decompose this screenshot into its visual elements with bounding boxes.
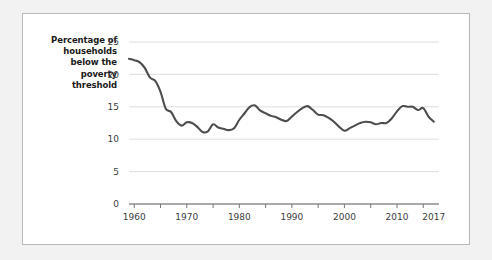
- x-tick-label: 1960: [123, 212, 146, 222]
- y-tick-label: 20: [108, 70, 120, 80]
- x-tick-label: 1990: [280, 212, 303, 222]
- poverty-rate-series-line: [129, 59, 434, 133]
- x-tick-label: 2010: [386, 212, 409, 222]
- poverty-rate-line-chart: 0510152025 1960197019801990200020102017: [23, 14, 471, 246]
- y-gridlines: [129, 42, 439, 172]
- y-tick-label: 25: [108, 37, 119, 47]
- x-tick-label: 1970: [175, 212, 198, 222]
- x-tick-label: 2000: [333, 212, 356, 222]
- y-tick-label: 10: [108, 134, 120, 144]
- y-tick-label: 0: [113, 199, 119, 209]
- x-tick-marks: [134, 204, 423, 208]
- x-tick-label: 2017: [422, 212, 445, 222]
- y-tick-label: 15: [108, 102, 119, 112]
- y-tick-labels: 0510152025: [108, 37, 120, 209]
- x-tick-labels: 1960197019801990200020102017: [123, 212, 445, 222]
- x-tick-label: 1980: [228, 212, 251, 222]
- screenshot-root: Percentage of households below the pover…: [0, 0, 492, 260]
- y-tick-label: 5: [113, 167, 119, 177]
- chart-panel: Percentage of households below the pover…: [22, 13, 470, 245]
